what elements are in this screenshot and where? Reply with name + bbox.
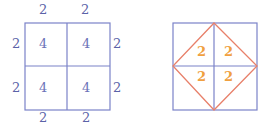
cell-area-1: 4	[39, 36, 47, 51]
cell-area-3: 4	[39, 80, 47, 95]
left-side-label-2: 2	[12, 80, 20, 95]
triangle-area-1: 2	[197, 44, 206, 59]
left-top-label-1: 2	[39, 2, 47, 17]
left-grid	[25, 23, 110, 110]
left-side-label-1: 2	[12, 36, 20, 51]
left-bottom-label-1: 2	[39, 110, 47, 125]
right-side-label-2: 2	[113, 80, 121, 95]
triangle-area-3: 2	[197, 69, 206, 84]
cell-area-2: 4	[82, 36, 90, 51]
left-bottom-label-2: 2	[82, 110, 90, 125]
right-side-label-1: 2	[113, 36, 121, 51]
triangle-area-2: 2	[224, 44, 233, 59]
cell-area-4: 4	[82, 80, 90, 95]
triangle-area-4: 2	[224, 69, 233, 84]
left-top-label-2: 2	[81, 2, 89, 17]
right-grid	[173, 23, 257, 110]
